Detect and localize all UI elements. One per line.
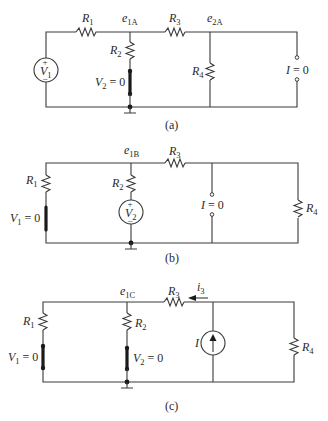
open-terminal-bottom: [210, 213, 214, 217]
label-r1: R1: [25, 173, 38, 189]
label-v2-zero: V2 = 0: [95, 75, 125, 91]
label-e1c: e1C: [120, 284, 136, 300]
resistor-r2: [123, 313, 131, 330]
resistor-r1: [42, 175, 50, 192]
resistor-r4: [290, 338, 298, 355]
resistor-r3: [164, 298, 184, 306]
label-r2: R2: [111, 176, 124, 192]
open-terminal-bottom: [295, 78, 299, 82]
circuit-b: + − V2 e1B R3 R1 R2 V1 = 0 I = 0 R4 (b): [10, 143, 318, 265]
resistor-r4: [206, 63, 214, 80]
resistor-r3: [165, 28, 185, 36]
circuit-c: e1C R3 i3 R1 R2 V1 = 0 V2 = 0 I R4 (c): [8, 280, 314, 413]
label-r4: R4: [301, 340, 314, 356]
label-v1-zero: V1 = 0: [10, 211, 40, 227]
label-r1: R1: [81, 11, 94, 27]
circuit-a: + − V1 R1 e1A R2 V2 = 0 R3 e2A R4 I = 0 …: [34, 11, 309, 132]
label-i3: i3: [197, 280, 205, 296]
resistor-r2: [127, 175, 135, 192]
caption-c: (c): [165, 399, 178, 413]
label-i-zero: I = 0: [285, 63, 309, 77]
label-i: I: [194, 336, 200, 350]
resistor-r1: [39, 313, 47, 330]
label-i-zero: I = 0: [200, 198, 224, 212]
resistor-r3: [165, 159, 185, 167]
ground-icon: [125, 243, 137, 249]
caption-a: (a): [165, 118, 178, 132]
resistor-r2: [126, 42, 134, 59]
label-v1-zero: V1 = 0: [8, 350, 38, 366]
label-r1: R1: [22, 314, 35, 330]
circuit-figure: + − V1 R1 e1A R2 V2 = 0 R3 e2A R4 I = 0 …: [0, 0, 328, 421]
label-r4: R4: [191, 64, 204, 80]
label-e2a: e2A: [207, 11, 224, 27]
resistor-r4: [294, 200, 302, 217]
caption-b: (b): [165, 251, 179, 265]
label-r3: R3: [168, 11, 181, 27]
open-terminal-top: [295, 56, 299, 60]
ground-icon: [124, 107, 136, 113]
label-v2-zero: V2 = 0: [133, 351, 163, 367]
label-r4: R4: [305, 201, 318, 217]
resistor-r1: [76, 28, 98, 36]
ground-icon: [121, 382, 133, 388]
current-arrow-i3-icon: [188, 295, 196, 301]
label-e1b: e1B: [124, 143, 140, 159]
label-r2: R2: [109, 43, 122, 59]
label-r3: R3: [168, 144, 181, 160]
open-terminal-top: [210, 193, 214, 197]
label-r2: R2: [134, 316, 147, 332]
label-r3: R3: [167, 284, 180, 300]
label-e1a: e1A: [122, 11, 139, 27]
